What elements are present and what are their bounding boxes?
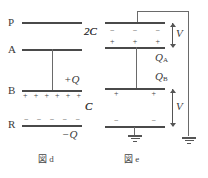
voltage-label-top: V [176,28,183,39]
sign: − [151,117,156,125]
plate-label-A: A [8,44,16,55]
plate-label-R: R [8,119,15,130]
plate-top-right-charge-signs: − − − [110,27,160,35]
plate-label-B: B [8,85,15,96]
sign: − [50,116,55,124]
wire-mid-connection [136,47,137,88]
plate-R-charge-signs: − − − − − [24,116,80,124]
voltage-arrow-bottom [172,89,173,126]
sign: − [110,27,115,35]
sign: + [23,92,28,100]
voltage-label-bottom: V [176,101,183,112]
sign: − [75,116,80,124]
ground-bar-2 [131,138,140,139]
sign: − [63,116,68,124]
charge-label-minus-Q: −Q [62,129,77,140]
sign: + [114,90,119,98]
wire-A-to-B [52,49,53,91]
plate-top-right [105,22,165,24]
ground-bar-1 [182,137,196,138]
plate-label-P: P [8,17,14,28]
charge-label-QA-text: Q [155,51,163,63]
figure-canvas: P 2C A +Q B + + + + + + C R − − − − [0,0,208,178]
charge-label-QA-sub: A [163,56,168,64]
wire-right-rail [188,11,189,136]
plate-R [22,125,82,127]
ground-icon-right [182,136,196,144]
ground-bar-3 [133,141,137,142]
sign: + [76,92,81,100]
charge-label-plus-Q: +Q [64,74,79,85]
capacitance-label-2C-right: 2C [84,26,97,37]
ground-bar-2 [185,140,194,141]
plate-P [22,22,82,24]
charge-label-QB-text: Q [155,70,163,82]
sign: − [133,27,138,35]
sign: + [55,92,60,100]
charge-label-QA: QA [155,52,168,64]
charge-label-QB: QB [155,71,168,83]
plate-bottom-charge-signs: − − [114,117,156,125]
sign: + [151,90,156,98]
sign: + [66,92,71,100]
sign: + [44,92,49,100]
caption-figure-d: 図 d [38,155,54,164]
sign: + [155,38,160,46]
sign: + [133,38,138,46]
sign: − [155,27,160,35]
ground-bar-1 [128,135,142,136]
sign: − [37,116,42,124]
wire-top-horizontal [137,11,189,12]
caption-figure-e: 図 e [124,155,139,164]
plate-B-charge-signs: + + + + + + [23,92,81,100]
ground-icon-left [128,134,142,142]
sign: + [110,38,115,46]
ground-bar-3 [187,143,191,144]
plate-upper-mid [105,47,165,49]
capacitance-label-C-right: C [85,101,92,112]
plate-lower-mid-charge-signs: + + [114,90,156,98]
plate-upper-mid-charge-signs: + + + [110,38,160,46]
voltage-arrow-top [172,23,173,47]
charge-label-QB-sub: B [163,75,168,83]
sign: + [34,92,39,100]
sign: − [114,117,119,125]
sign: − [24,116,29,124]
